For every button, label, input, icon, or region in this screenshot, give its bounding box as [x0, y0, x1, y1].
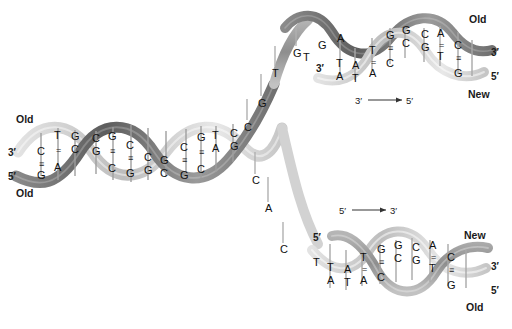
base: C [71, 144, 79, 155]
helix-ribbons [0, 0, 512, 329]
bond: ≡ [379, 258, 384, 267]
base: A [369, 68, 376, 79]
parent-5prime-label: 5′ [8, 172, 16, 182]
unwound-lower-template [282, 128, 318, 244]
base: G [144, 165, 153, 176]
parent-old-bottom-label: Old [16, 188, 34, 199]
base: T [352, 73, 359, 84]
base: G [197, 132, 206, 143]
base: T [429, 263, 436, 274]
bond: = [56, 146, 61, 155]
unwound-base: C [280, 244, 288, 255]
base: G [160, 155, 169, 166]
bond: ≡ [388, 44, 393, 53]
base: C [454, 40, 462, 51]
base: T [437, 51, 444, 62]
bond: ≡ [449, 266, 454, 275]
top-daughter-3prime: 3′ [491, 48, 499, 58]
bottom-daughter-left-5prime: 5′ [313, 233, 321, 243]
top-daughter-old-label: Old [469, 14, 487, 25]
top-daughter-left-3prime: 3′ [316, 64, 324, 74]
top-direction-arrow [368, 98, 402, 103]
unwound-base: G [258, 98, 267, 109]
base: C [377, 272, 385, 283]
base: G [394, 240, 403, 251]
base: A [327, 275, 334, 286]
base: G [377, 244, 386, 255]
base: C [180, 142, 188, 153]
base: G [402, 25, 411, 36]
base: G [447, 280, 456, 291]
top-arrow-left-label: 3′ [355, 95, 362, 106]
bond: ≡ [110, 147, 115, 156]
base: G [230, 141, 239, 152]
base: T [344, 277, 351, 288]
base: G [421, 42, 430, 53]
bond: ≡ [199, 148, 204, 157]
base: G [386, 30, 395, 41]
bond: = [439, 41, 444, 50]
bond: ≡ [128, 154, 133, 163]
base: C [412, 242, 420, 253]
dna-replication-diagram: Old Old 3′ 5′ C ≡ G T = A G C C G G ≡ C … [0, 0, 512, 329]
base: G [71, 131, 80, 142]
base: C [126, 140, 134, 151]
unwound-base: C [252, 175, 260, 186]
top-daughter-5prime: 5′ [491, 72, 499, 82]
base: A [212, 143, 219, 154]
base: A [437, 28, 444, 39]
base: A [337, 33, 344, 44]
base: A [336, 71, 343, 82]
top-daughter-new-label: New [468, 89, 490, 100]
base: G [108, 131, 117, 142]
bottom-daughter-new-label: New [464, 230, 486, 241]
base: G [318, 40, 327, 51]
base: T [303, 52, 310, 63]
parent-3prime-label: 3′ [8, 148, 16, 158]
base: C [92, 133, 100, 144]
base: A [54, 162, 61, 173]
base: C [421, 29, 429, 40]
base: A [352, 60, 359, 71]
base: C [197, 164, 205, 175]
bond: = [362, 265, 367, 274]
unwound-base: T [272, 68, 279, 79]
base: G [37, 170, 46, 181]
base: T [369, 45, 376, 56]
base: T [327, 262, 334, 273]
top-arrow-right-label: 5′ [406, 95, 413, 106]
bottom-arrow-right-label: 3′ [390, 205, 397, 216]
bottom-daughter-old-label: Old [466, 302, 484, 313]
base: C [394, 253, 402, 264]
base: G [126, 168, 135, 179]
base: T [313, 257, 320, 268]
base: C [144, 152, 152, 163]
bond: ≡ [456, 54, 461, 63]
base: G [454, 68, 463, 79]
base: C [447, 252, 455, 263]
base: C [108, 163, 116, 174]
bottom-arrow-left-label: 5′ [339, 205, 346, 216]
base: T [212, 130, 219, 141]
base: G [92, 146, 101, 157]
bottom-daughter-5prime: 5′ [491, 286, 499, 296]
base: C [230, 128, 238, 139]
unwound-base: C [244, 122, 252, 133]
unwound-base: A [265, 203, 272, 214]
base: G [412, 255, 421, 266]
base: G [180, 170, 189, 181]
base: T [360, 252, 367, 263]
unwound-base: G [293, 48, 302, 59]
base: C [37, 146, 45, 157]
base: T [54, 130, 61, 141]
bottom-daughter-3prime: 3′ [491, 262, 499, 272]
parent-old-top-label: Old [16, 114, 34, 125]
bond: = [371, 58, 376, 67]
bottom-direction-arrow [352, 208, 386, 213]
base: A [344, 264, 351, 275]
bond: = [431, 253, 436, 262]
base: C [402, 38, 410, 49]
base: A [429, 240, 436, 251]
bond: ≡ [39, 160, 44, 169]
base: A [360, 275, 367, 286]
